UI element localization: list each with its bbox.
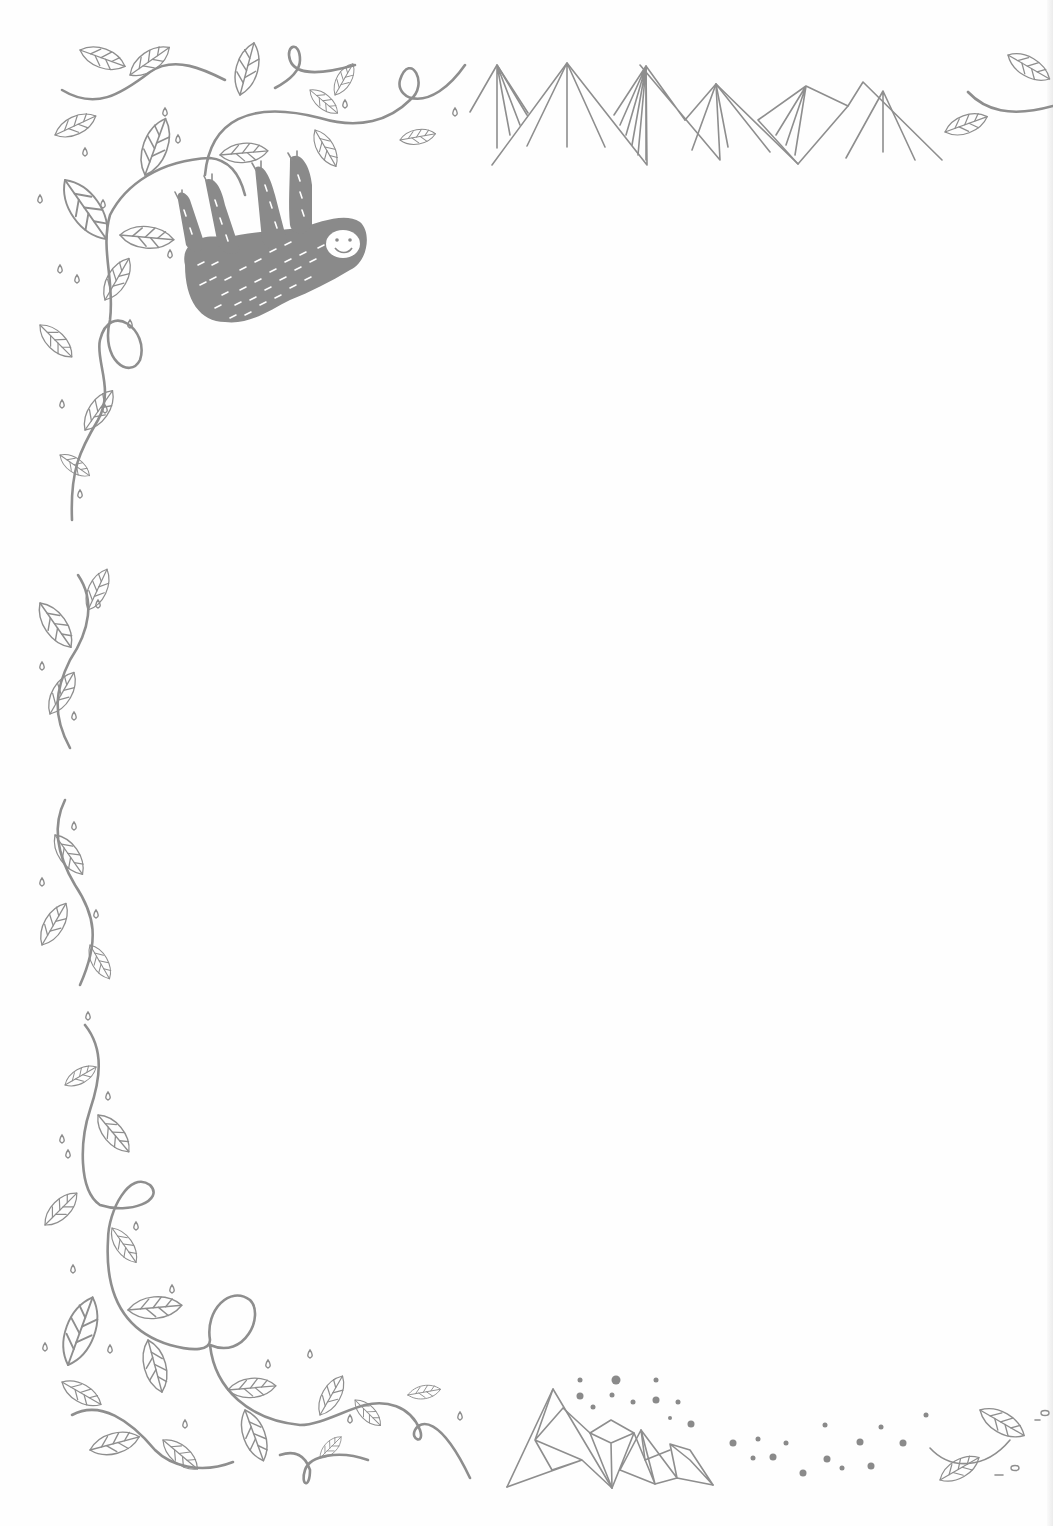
left-side-vine-upper bbox=[31, 565, 115, 748]
top-geometric-mountains bbox=[470, 63, 942, 165]
blank-writing-area bbox=[130, 200, 990, 1350]
bottom-crystal-mountains bbox=[507, 1376, 713, 1489]
left-side-vine-lower bbox=[34, 800, 117, 985]
top-right-leaf-sprig bbox=[942, 47, 1053, 141]
stationery-page bbox=[0, 0, 1053, 1526]
bottom-right-dots-and-sprig bbox=[730, 1401, 1050, 1488]
